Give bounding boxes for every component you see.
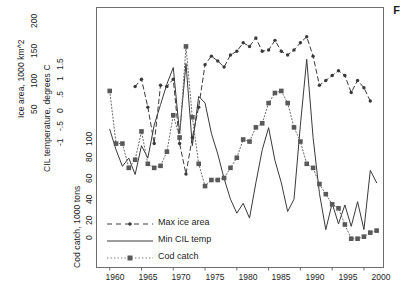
- data-point-max-ice-area: [299, 41, 302, 44]
- legend-label-cod-catch: Cod catch: [158, 251, 199, 261]
- data-point-cod-catch: [177, 135, 182, 140]
- data-point-max-ice-area: [280, 50, 283, 53]
- data-point-max-ice-area: [369, 99, 372, 102]
- data-point-max-ice-area: [305, 35, 308, 38]
- data-point-cod-catch: [196, 162, 201, 167]
- data-point-cod-catch: [343, 222, 348, 227]
- legend-row-cod-catch: Cod catch: [106, 250, 228, 266]
- data-point-max-ice-area: [330, 74, 333, 77]
- data-point-max-ice-area: [337, 69, 340, 72]
- data-point-cod-catch: [285, 101, 290, 106]
- data-point-max-ice-area: [216, 59, 219, 62]
- data-point-cod-catch: [292, 125, 297, 130]
- data-point-max-ice-area: [184, 172, 187, 175]
- data-point-max-ice-area: [343, 74, 346, 77]
- data-point-cod-catch: [304, 162, 309, 167]
- data-point-cod-catch: [324, 192, 329, 197]
- legend-row-max-ice-area: Max ice area: [106, 216, 228, 232]
- legend-label-min-cil-temp: Min CIL temp: [158, 234, 211, 244]
- data-point-max-ice-area: [311, 54, 314, 57]
- data-point-cod-catch: [317, 182, 322, 187]
- series-cod-catch: [107, 44, 379, 241]
- data-point-max-ice-area: [133, 85, 136, 88]
- data-point-cod-catch: [349, 236, 354, 241]
- data-point-cod-catch: [133, 157, 138, 162]
- data-point-cod-catch: [171, 113, 176, 118]
- legend-label-max-ice-area: Max ice area: [158, 217, 210, 227]
- data-point-cod-catch: [273, 91, 278, 96]
- data-point-cod-catch: [241, 137, 246, 142]
- data-point-cod-catch: [260, 121, 265, 126]
- series-max-ice-area: [133, 35, 372, 176]
- data-point-max-ice-area: [153, 142, 156, 145]
- data-point-max-ice-area: [248, 45, 251, 48]
- data-point-max-ice-area: [324, 79, 327, 82]
- chart-legend: Max ice area Min CIL temp Cod catch: [106, 216, 228, 268]
- data-point-max-ice-area: [178, 142, 181, 145]
- data-point-cod-catch: [336, 206, 341, 211]
- data-point-cod-catch: [222, 176, 227, 181]
- data-point-max-ice-area: [286, 53, 289, 56]
- series-min-cil-temp: [110, 59, 377, 229]
- data-point-max-ice-area: [292, 48, 295, 51]
- data-point-cod-catch: [374, 228, 379, 233]
- data-point-cod-catch: [190, 115, 195, 120]
- data-point-max-ice-area: [350, 91, 353, 94]
- data-point-max-ice-area: [254, 36, 257, 39]
- legend-row-min-cil-temp: Min CIL temp: [106, 233, 228, 249]
- data-point-max-ice-area: [261, 50, 264, 53]
- data-point-max-ice-area: [241, 41, 244, 44]
- data-point-cod-catch: [362, 234, 367, 239]
- data-point-cod-catch: [203, 184, 208, 189]
- data-point-max-ice-area: [159, 84, 162, 87]
- data-point-cod-catch: [311, 166, 316, 171]
- data-point-cod-catch: [165, 149, 170, 154]
- data-point-cod-catch: [120, 141, 125, 146]
- data-point-max-ice-area: [273, 39, 276, 42]
- data-point-cod-catch: [146, 162, 151, 167]
- data-point-max-ice-area: [235, 50, 238, 53]
- data-point-cod-catch: [215, 178, 220, 183]
- data-point-cod-catch: [266, 101, 271, 106]
- data-point-cod-catch: [139, 129, 144, 134]
- legend-swatch-solid: [106, 233, 154, 249]
- data-point-cod-catch: [355, 236, 360, 241]
- data-point-cod-catch: [114, 141, 119, 146]
- data-point-max-ice-area: [356, 79, 359, 82]
- data-point-max-ice-area: [229, 53, 232, 56]
- data-point-cod-catch: [368, 230, 373, 235]
- data-point-max-ice-area: [140, 78, 143, 81]
- data-point-cod-catch: [158, 164, 163, 169]
- legend-swatch-dotted-square: [106, 250, 154, 266]
- data-point-cod-catch: [126, 166, 131, 171]
- data-point-cod-catch: [209, 178, 214, 183]
- legend-swatch-dashed-marker: [106, 216, 154, 232]
- data-point-cod-catch: [235, 155, 240, 160]
- data-point-cod-catch: [279, 89, 284, 94]
- figure-container: Ice area, 1000 km^2 CIL temperature, deg…: [0, 0, 403, 307]
- data-point-max-ice-area: [362, 86, 365, 89]
- data-point-cod-catch: [298, 139, 303, 144]
- data-point-cod-catch: [107, 89, 112, 94]
- data-point-cod-catch: [152, 166, 157, 171]
- data-point-max-ice-area: [203, 63, 206, 66]
- data-point-cod-catch: [228, 166, 233, 171]
- data-point-cod-catch: [247, 139, 252, 144]
- data-point-max-ice-area: [267, 48, 270, 51]
- data-point-cod-catch: [254, 125, 259, 130]
- data-point-cod-catch: [184, 44, 189, 49]
- figure-caption-fragment: F: [393, 4, 400, 16]
- data-point-max-ice-area: [318, 84, 321, 87]
- data-point-cod-catch: [330, 202, 335, 207]
- data-point-max-ice-area: [146, 105, 149, 108]
- data-point-max-ice-area: [222, 65, 225, 68]
- data-point-max-ice-area: [210, 54, 213, 57]
